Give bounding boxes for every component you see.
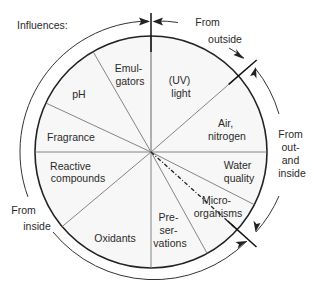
label-emulgators: Emul- gators	[115, 62, 145, 87]
label-uv-light: (UV) light	[169, 74, 194, 99]
label-oxidants: Oxidants	[94, 232, 135, 244]
label-from-out-and-inside: From out- and inside	[278, 128, 306, 179]
label-ph: pH	[72, 88, 85, 100]
arrow-lower-right-from-below	[236, 241, 248, 249]
label-fragrance: Fragrance	[47, 131, 95, 143]
title-influences: Influences:	[17, 19, 68, 31]
label-from-inside: From inside	[11, 204, 51, 232]
arrow-upper-right-from-below	[250, 67, 257, 79]
label-water-quality: Water quality	[224, 159, 255, 184]
influences-pie-diagram: Influences: Emul- gators (UV) light Air,…	[0, 0, 314, 294]
arc-out-and-inside-lower	[256, 196, 279, 232]
label-from-outside: From outside	[195, 16, 242, 45]
arrow-upper-right-from-outside	[234, 49, 245, 59]
